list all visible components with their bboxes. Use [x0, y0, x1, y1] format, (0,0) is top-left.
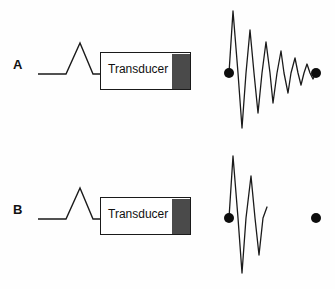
panel-a: A Transducer	[0, 0, 335, 144]
echo-start-marker-a	[224, 68, 234, 78]
panel-b: B Transducer	[0, 145, 335, 289]
echo-start-marker-b	[224, 213, 234, 223]
figure-root: A Transducer B Transducer	[0, 0, 335, 289]
panel-b-markers	[0, 145, 335, 289]
echo-end-marker-a	[311, 68, 321, 78]
panel-a-markers	[0, 0, 335, 144]
echo-end-marker-b	[311, 213, 321, 223]
